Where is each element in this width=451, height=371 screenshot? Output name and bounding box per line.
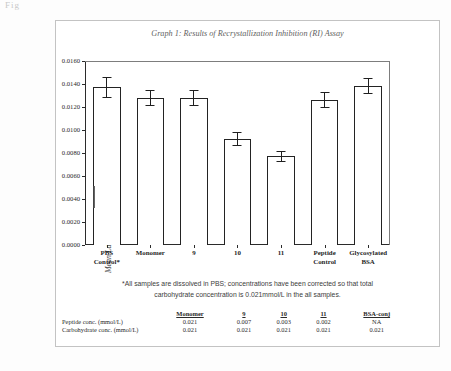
table-column-header: 9	[224, 310, 264, 318]
x-axis-label: PeptideControl	[304, 249, 345, 266]
axis-area: Mean Largest Grain Size (MLGMS) mm² 0.01…	[85, 61, 390, 245]
error-bar-cap-bottom	[320, 107, 329, 108]
footnote-line-2: carbohydrate concentration is 0.021mmol/…	[62, 290, 433, 301]
table-column-header: Monomer	[156, 310, 224, 318]
figure-footnote: *All samples are dissolved in PBS; conce…	[62, 279, 433, 300]
y-tick-label: 0.0100	[34, 126, 85, 133]
y-tick-label: 0.0120	[34, 103, 85, 110]
error-bar	[102, 77, 111, 98]
error-bar-cap-top	[233, 132, 242, 133]
x-axis-label-line: 9	[173, 249, 214, 258]
error-bar	[146, 90, 155, 106]
bar-slot	[350, 61, 385, 245]
x-tick-mark	[237, 245, 238, 248]
bar[interactable]	[311, 100, 339, 245]
x-axis-label: PBSControl*	[86, 249, 127, 266]
bar-slot	[307, 61, 342, 245]
table-column-header: 11	[304, 310, 344, 318]
bar[interactable]	[267, 156, 295, 245]
x-axis-labels: PBSControl*Monomer91011PeptideControlGly…	[85, 249, 390, 266]
x-tick-mark	[150, 245, 151, 248]
x-tick-mark	[281, 245, 282, 248]
table-column-header: 10	[264, 310, 304, 318]
table-corner-cell	[60, 310, 156, 318]
error-bar-cap-bottom	[364, 93, 373, 94]
x-axis-label-line: 11	[260, 249, 301, 258]
error-bar	[364, 78, 373, 94]
x-axis-label-line: 10	[217, 249, 258, 258]
table-row: Peptide conc. (mmol/L)0.0210.0070.0030.0…	[60, 318, 410, 326]
x-axis-label-line: PBS	[86, 249, 127, 258]
bar-slot	[263, 61, 298, 245]
footnote-line-1: *All samples are dissolved in PBS; conce…	[62, 279, 433, 290]
bar-slot	[133, 61, 168, 245]
bar[interactable]	[137, 98, 165, 245]
x-axis-label-line: Monomer	[130, 249, 171, 258]
error-bar-cap-top	[102, 77, 111, 78]
bar[interactable]	[354, 86, 382, 245]
table-cell: 0.007	[224, 318, 264, 326]
y-tick-label: 0.0000	[34, 241, 85, 248]
table-cell: 0.021	[156, 326, 224, 334]
table-cell: 0.021	[304, 326, 344, 334]
error-bar-stem	[106, 77, 107, 98]
x-tick-mark	[325, 245, 326, 248]
error-bar	[277, 151, 286, 163]
error-bar-stem	[150, 90, 151, 106]
table-cell: 0.021	[264, 326, 304, 334]
error-bar-stem	[193, 90, 194, 106]
x-tick-mark	[194, 245, 195, 248]
table-cell: 0.021	[343, 326, 410, 334]
x-axis-label-line: Control*	[86, 258, 127, 267]
error-bar-cap-bottom	[146, 105, 155, 106]
table-cell: 0.003	[264, 318, 304, 326]
figure-page: Fig Graph 1: Results of Recrystallizatio…	[0, 0, 451, 371]
error-bar-cap-top	[320, 92, 329, 93]
bar-slot	[89, 61, 124, 245]
bar[interactable]	[93, 87, 121, 245]
error-bar-cap-bottom	[189, 105, 198, 106]
error-bar-cap-top	[146, 90, 155, 91]
error-bar-cap-bottom	[233, 145, 242, 146]
table-cell: 0.021	[224, 326, 264, 334]
x-tick-mark	[368, 245, 369, 248]
error-bar	[233, 132, 242, 146]
table-header-row: Monomer91011BSA-conj	[60, 310, 410, 318]
error-bar	[189, 90, 198, 106]
x-axis-label-line: Control	[304, 258, 345, 267]
y-tick-label: 0.0080	[34, 149, 85, 156]
error-bar-stem	[237, 132, 238, 146]
concentration-table: Monomer91011BSA-conj Peptide conc. (mmol…	[60, 310, 410, 333]
error-bar	[320, 92, 329, 108]
bar[interactable]	[224, 139, 252, 245]
error-bar-cap-bottom	[102, 97, 111, 98]
table-row-label: Peptide conc. (mmol/L)	[60, 318, 156, 326]
x-axis-label: Monomer	[130, 249, 171, 266]
table-body: Peptide conc. (mmol/L)0.0210.0070.0030.0…	[60, 318, 410, 334]
scan-smudge-mark	[93, 186, 95, 208]
y-tick-label: 0.0020	[34, 218, 85, 225]
error-bar-cap-bottom	[277, 161, 286, 162]
x-axis-label: 9	[173, 249, 214, 266]
y-tick-mark	[82, 245, 85, 246]
bar-slot	[176, 61, 211, 245]
error-bar-cap-top	[189, 90, 198, 91]
x-axis-label: GlycosylatedBSA	[348, 249, 389, 266]
bar[interactable]	[180, 98, 208, 245]
table-column-header: BSA-conj	[343, 310, 410, 318]
x-axis-label-line: Peptide	[304, 249, 345, 258]
error-bar-stem	[324, 92, 325, 108]
error-bar-stem	[368, 78, 369, 94]
error-bar-cap-top	[277, 151, 286, 152]
x-axis-label: 11	[260, 249, 301, 266]
bar-slot	[220, 61, 255, 245]
table-cell: NA	[343, 318, 410, 326]
table-row: Carbohydrate conc. (mmol/L)0.0210.0210.0…	[60, 326, 410, 334]
table-cell: 0.021	[156, 318, 224, 326]
x-axis-label-line: Glycosylated	[348, 249, 389, 258]
y-tick-label: 0.0140	[34, 80, 85, 87]
x-axis-label-line: BSA	[348, 258, 389, 267]
x-tick-mark	[107, 245, 108, 248]
y-tick-label: 0.0160	[34, 57, 85, 64]
error-bar-cap-top	[364, 78, 373, 79]
